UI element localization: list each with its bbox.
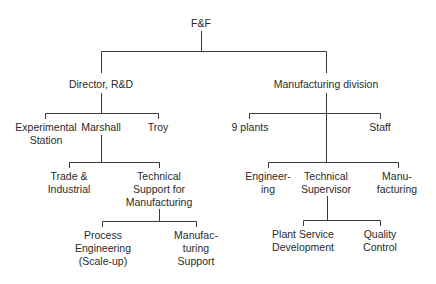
node-label-line: Engineer- (245, 170, 291, 183)
node-manufacturing-support: Manufac- turing Support (174, 229, 218, 268)
node-technical-support: Technical Support for Manufacturing (126, 170, 193, 209)
node-label-line: Station (15, 134, 76, 147)
node-label-line: Marshall (81, 121, 121, 134)
node-label-line: Industrial (48, 183, 91, 196)
node-ff-label: F&F (191, 17, 211, 30)
node-label-line: Supervisor (301, 183, 351, 196)
node-label-line: Development (272, 241, 334, 254)
node-label-line: (Scale-up) (75, 255, 131, 268)
node-experimental-station: Experimental Station (15, 121, 76, 147)
node-label-line: Manu- (377, 170, 417, 183)
node-manufacturing-division-label: Manufacturing division (274, 78, 378, 91)
node-label-line: Technical (301, 170, 351, 183)
node-label-line: facturing (377, 183, 417, 196)
node-staff: Staff (369, 121, 390, 134)
node-label-line: Manufac- (174, 229, 218, 242)
node-label-line: turing (174, 242, 218, 255)
node-label-line: ing (245, 183, 291, 196)
node-label-line: Manufacturing (126, 196, 193, 209)
node-label-line: Support for (126, 183, 193, 196)
node-label-line: 9 plants (232, 121, 269, 134)
node-marshall: Marshall (81, 121, 121, 134)
node-quality-control: Quality Control (363, 228, 397, 254)
node-director-rd: Director, R&D (69, 78, 133, 91)
node-technical-supervisor: Technical Supervisor (301, 170, 351, 196)
node-label-line: Technical (126, 170, 193, 183)
node-label-line: Plant Service (272, 228, 334, 241)
node-label-line: Engineering (75, 242, 131, 255)
node-process-engineering: Process Engineering (Scale-up) (75, 229, 131, 268)
node-plant-service-development: Plant Service Development (272, 228, 334, 254)
node-manufacturing: Manu- facturing (377, 170, 417, 196)
node-label-line: Support (174, 255, 218, 268)
node-trade-industrial: Trade & Industrial (48, 170, 91, 196)
node-label-line: Quality (363, 228, 397, 241)
node-label-line: Troy (148, 121, 169, 134)
node-director-rd-label: Director, R&D (69, 78, 133, 91)
node-label-line: Process (75, 229, 131, 242)
node-9-plants: 9 plants (232, 121, 269, 134)
node-ff: F&F (191, 17, 211, 30)
node-label-line: Control (363, 241, 397, 254)
node-manufacturing-division: Manufacturing division (274, 78, 378, 91)
node-troy: Troy (148, 121, 169, 134)
node-label-line: Staff (369, 121, 390, 134)
node-label-line: Trade & (48, 170, 91, 183)
node-label-line: Experimental (15, 121, 76, 134)
node-engineering: Engineer- ing (245, 170, 291, 196)
